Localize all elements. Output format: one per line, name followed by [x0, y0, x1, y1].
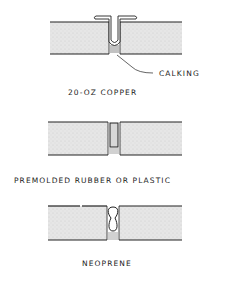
calking-leader [117, 55, 153, 73]
caption-premolded: PREMOLDED RUBBER OR PLASTIC [14, 176, 171, 185]
slab-right [120, 22, 182, 54]
slab-left [50, 22, 109, 54]
detail-copper: CALKING 20-OZ COPPER [50, 16, 200, 97]
neoprene-seal [108, 207, 118, 231]
premolded-filler [110, 123, 118, 147]
calking-label: CALKING [159, 69, 200, 78]
caption-neoprene: NEOPRENE [82, 259, 132, 268]
detail-premolded: PREMOLDED RUBBER OR PLASTIC [14, 122, 182, 185]
caption-copper: 20-OZ COPPER [68, 88, 137, 97]
detail-neoprene: NEOPRENE [48, 206, 182, 268]
calking [110, 46, 119, 52]
expansion-joint-diagram: CALKING 20-OZ COPPER PREMOLDED RUBBER OR… [0, 0, 242, 281]
